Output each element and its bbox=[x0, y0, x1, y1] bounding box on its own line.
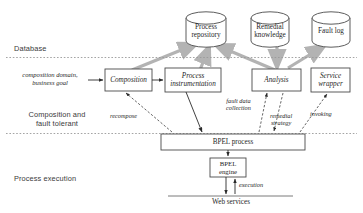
architecture-diagram: Database Composition and fault tolerant … bbox=[0, 0, 363, 213]
component-label-bpel-process: BPEL process bbox=[161, 134, 305, 150]
datastore-label-fault-log: Fault log bbox=[312, 24, 350, 38]
input-label-composition-domain: composition domain, business goal bbox=[12, 71, 88, 87]
arrow-analysis-to-fault-log bbox=[288, 46, 324, 68]
edge-label-recompose: recompose bbox=[110, 112, 137, 119]
component-label-composition: Composition bbox=[105, 69, 152, 91]
endpoint-label-web-services: Web services bbox=[192, 197, 270, 208]
datastore-label-process-repository: Process repository bbox=[186, 22, 226, 40]
edge-label-fault-data-collection: fault data collection bbox=[226, 97, 251, 111]
component-label-service-wrapper: Service wrapper bbox=[311, 68, 350, 92]
arrow-instrumentation-to-process-repository bbox=[200, 47, 209, 70]
edge-label-invoking: invoking bbox=[310, 110, 332, 117]
component-label-process-instrumentation: Process instrumentation bbox=[165, 68, 221, 92]
arrow-instrumentation-to-bpel-process bbox=[186, 92, 202, 132]
component-label-bpel-engine: BPEL engine bbox=[210, 158, 246, 177]
arrow-fault-data-collection bbox=[259, 93, 267, 132]
arrow-composition-to-process-repository bbox=[132, 44, 196, 70]
edge-label-remedial-strategy: remedial strategy bbox=[270, 112, 292, 126]
layer-label-database: Database bbox=[14, 44, 46, 53]
layer-label-process-execution: Process execution bbox=[14, 174, 76, 183]
datastore-label-remedial-knowledge: Remedial knowledge bbox=[251, 22, 289, 40]
component-label-analysis: Analysis bbox=[252, 69, 301, 91]
edge-label-execution: execution bbox=[239, 181, 263, 188]
layer-label-composition-fault-tolerant: Composition and fault tolerant bbox=[14, 110, 100, 128]
gray-datastore-arrows bbox=[132, 44, 324, 70]
